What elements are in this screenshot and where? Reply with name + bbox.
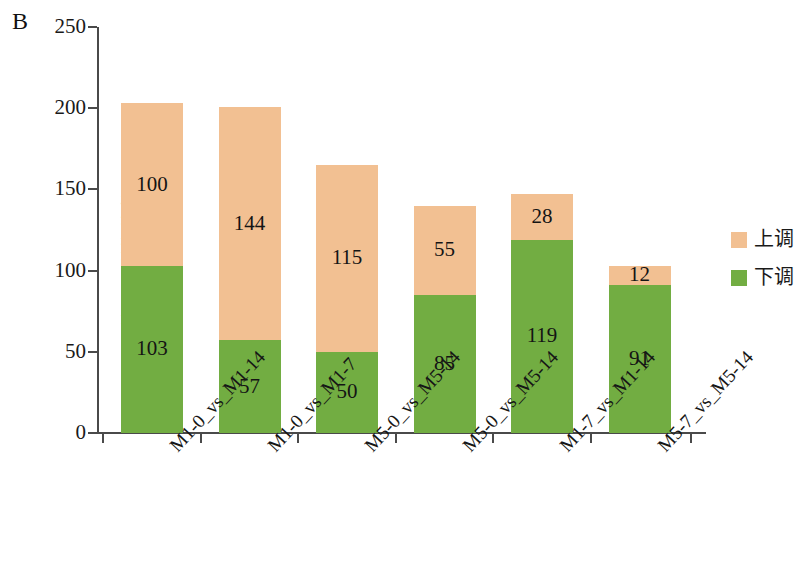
plot-area: 10310057144501158555119289112 <box>97 27 705 433</box>
x-category-label: M1-7_vs_M1-14 <box>556 442 570 455</box>
bar-segment-up[interactable]: 144 <box>219 107 281 341</box>
bar-segment-down[interactable]: 103 <box>121 266 183 433</box>
x-category-label: M5-0_vs_M5-14 <box>361 442 375 455</box>
bar-value-up: 100 <box>121 174 183 195</box>
y-tick-label: 150 <box>0 178 86 199</box>
y-tick-label: 200 <box>0 97 86 118</box>
y-tick-mark <box>88 432 97 434</box>
x-tick-mark <box>590 434 592 443</box>
legend-swatch-up <box>731 232 747 248</box>
x-category-label: M5-0_vs_M5-14 <box>459 442 473 455</box>
y-tick-mark <box>88 351 97 353</box>
bar-segment-up[interactable]: 115 <box>316 165 378 352</box>
bar-value-up: 28 <box>511 206 573 227</box>
bar-value-up: 12 <box>609 264 671 285</box>
x-tick-mark <box>102 434 104 443</box>
bar-segment-up[interactable]: 28 <box>511 194 573 239</box>
x-category-label: M1-0_vs_M1-7 <box>264 442 278 455</box>
bar-value-down: 103 <box>121 338 183 359</box>
y-tick-label: 250 <box>0 16 86 37</box>
y-tick-mark <box>88 26 97 28</box>
figure-panel-b: B 差异代谢物的数量 050100150200250 1031005714450… <box>0 0 800 570</box>
x-tick-mark <box>395 434 397 443</box>
bar-group[interactable]: 103100 <box>121 27 183 433</box>
x-category-label: M5-7_vs_M5-14 <box>654 442 668 455</box>
y-tick-mark <box>88 107 97 109</box>
legend-label-up: 上调 <box>754 228 794 250</box>
legend-label-down: 下调 <box>754 266 794 288</box>
y-tick-label: 50 <box>0 341 86 362</box>
y-tick-mark <box>88 188 97 190</box>
bar-value-up: 115 <box>316 247 378 268</box>
legend-swatch-down <box>731 270 747 286</box>
x-tick-mark <box>690 434 692 443</box>
bar-value-up: 55 <box>414 239 476 260</box>
y-tick-label: 100 <box>0 260 86 281</box>
x-tick-mark <box>200 434 202 443</box>
y-tick-label: 0 <box>0 422 86 443</box>
bar-segment-up[interactable]: 55 <box>414 206 476 295</box>
bar-value-up: 144 <box>219 213 281 234</box>
x-category-label: M1-0_vs_M1-14 <box>166 442 180 455</box>
bar-value-down: 119 <box>511 325 573 346</box>
bar-segment-up[interactable]: 100 <box>121 103 183 265</box>
bar-segment-up[interactable]: 12 <box>609 266 671 285</box>
y-tick-mark <box>88 270 97 272</box>
